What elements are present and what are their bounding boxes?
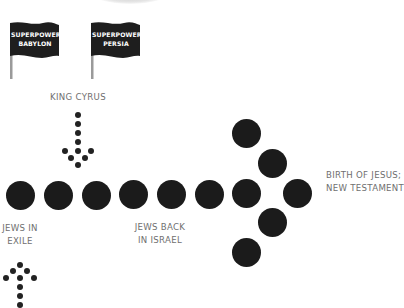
timeline-dot bbox=[119, 180, 148, 209]
timeline-dot bbox=[195, 180, 224, 209]
label-birth-of-jesus: BIRTH OF JESUS; NEW TESTAMENT bbox=[326, 169, 404, 195]
flag-label-line2: BABYLON bbox=[11, 39, 59, 48]
flag-icon bbox=[90, 20, 142, 80]
label-line2: EXILE bbox=[0, 235, 45, 248]
label-line2: NEW TESTAMENT bbox=[326, 182, 404, 195]
label-line1: BIRTH OF JESUS; bbox=[326, 169, 404, 182]
flag-label: SUPERPOWER: BABYLON bbox=[11, 30, 59, 48]
label-line1: JEWS BACK bbox=[125, 221, 195, 234]
label-jews-back-in-israel: JEWS BACK IN ISRAEL bbox=[125, 221, 195, 247]
label-king-cyrus: KING CYRUS bbox=[38, 91, 118, 104]
flag-label-line2: PERSIA bbox=[92, 39, 140, 48]
partial-shape-top bbox=[95, 0, 165, 4]
flag-babylon: SUPERPOWER: BABYLON bbox=[9, 20, 61, 80]
flag-persia: SUPERPOWER: PERSIA bbox=[90, 20, 142, 80]
timeline-dot bbox=[44, 181, 73, 210]
flag-icon bbox=[9, 20, 61, 80]
timeline-dot bbox=[82, 181, 111, 210]
flag-label-line1: SUPERPOWER: bbox=[11, 30, 59, 39]
label-jews-in-exile: JEWS IN EXILE bbox=[0, 222, 45, 248]
label-line1: JEWS IN bbox=[0, 222, 45, 235]
timeline-dot bbox=[157, 180, 186, 209]
flag-label-line1: SUPERPOWER: bbox=[92, 30, 140, 39]
timeline-dot bbox=[6, 181, 35, 210]
label-line2: IN ISRAEL bbox=[125, 234, 195, 247]
flag-label: SUPERPOWER: PERSIA bbox=[92, 30, 140, 48]
